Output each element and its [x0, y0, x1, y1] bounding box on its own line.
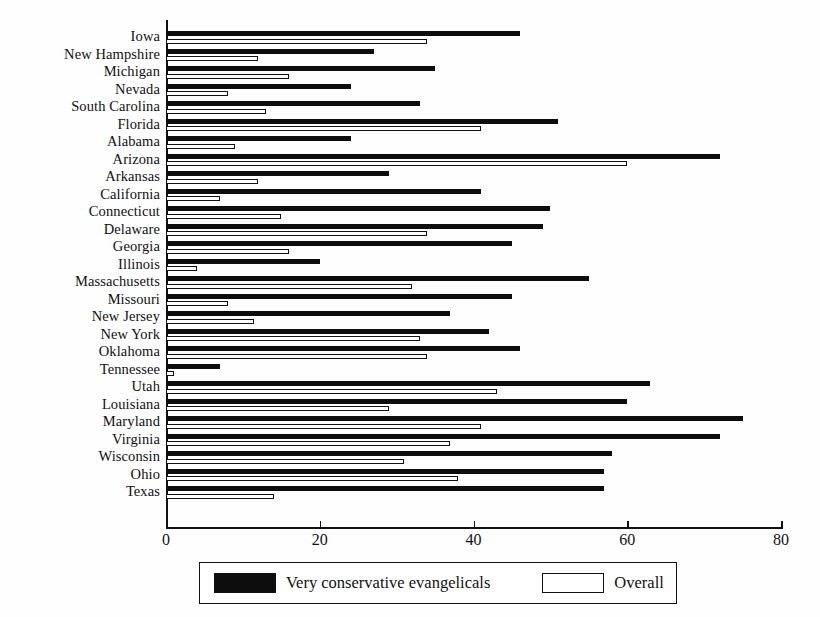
category-label: Virginia — [112, 431, 160, 448]
bar-overall — [166, 144, 235, 149]
bar-very-conservative-evangelicals — [166, 224, 543, 229]
bar-overall — [166, 354, 427, 359]
bar-very-conservative-evangelicals — [166, 434, 720, 439]
bar-very-conservative-evangelicals — [166, 206, 550, 211]
chart-row: Wisconsin — [166, 450, 781, 468]
category-label: Utah — [131, 378, 160, 395]
category-label: Michigan — [104, 63, 160, 80]
legend-label-overall: Overall — [614, 573, 663, 593]
x-tick-label: 80 — [773, 531, 789, 549]
category-label: Missouri — [108, 291, 160, 308]
bar-overall — [166, 74, 289, 79]
bar-very-conservative-evangelicals — [166, 399, 627, 404]
chart-row: Oklahoma — [166, 345, 781, 363]
category-label: Arkansas — [105, 168, 160, 185]
category-label: Massachusetts — [75, 273, 160, 290]
bar-overall — [166, 389, 497, 394]
category-label: Arizona — [113, 151, 160, 168]
bar-overall — [166, 284, 412, 289]
bar-overall — [166, 249, 289, 254]
category-label: Illinois — [118, 256, 160, 273]
bar-overall — [166, 476, 458, 481]
bar-overall — [166, 196, 220, 201]
chart-row: Arizona — [166, 153, 781, 171]
chart-row: Michigan — [166, 65, 781, 83]
legend-item-very-conservative-evangelicals: Very conservative evangelicals — [214, 573, 490, 593]
x-tick-mark — [627, 521, 629, 529]
legend-swatch-black — [214, 573, 276, 593]
bar-overall — [166, 319, 254, 324]
chart-row: Virginia — [166, 433, 781, 451]
x-tick-label: 40 — [466, 531, 482, 549]
bar-very-conservative-evangelicals — [166, 276, 589, 281]
category-label: Florida — [117, 116, 160, 133]
category-label: Nevada — [115, 81, 160, 98]
legend-label-very-conservative-evangelicals: Very conservative evangelicals — [286, 573, 490, 593]
bar-overall — [166, 109, 266, 114]
chart-row: Ohio — [166, 468, 781, 486]
bar-overall — [166, 459, 404, 464]
chart-row: Florida — [166, 118, 781, 136]
category-label: Connecticut — [89, 203, 160, 220]
bar-very-conservative-evangelicals — [166, 189, 481, 194]
chart-row: Tennessee — [166, 363, 781, 381]
bar-very-conservative-evangelicals — [166, 451, 612, 456]
category-label: Georgia — [113, 238, 160, 255]
bar-overall — [166, 179, 258, 184]
chart-row: New Jersey — [166, 310, 781, 328]
category-label: Iowa — [131, 28, 160, 45]
category-label: New York — [100, 326, 160, 343]
legend-item-overall: Overall — [542, 573, 663, 593]
category-label: Louisiana — [102, 396, 160, 413]
bar-very-conservative-evangelicals — [166, 381, 650, 386]
chart-row: Massachusetts — [166, 275, 781, 293]
x-tick-mark — [166, 521, 168, 529]
legend-swatch-white — [542, 573, 604, 593]
chart-row: Delaware — [166, 223, 781, 241]
bar-very-conservative-evangelicals — [166, 469, 604, 474]
bar-very-conservative-evangelicals — [166, 346, 520, 351]
chart-row: California — [166, 188, 781, 206]
bar-chart: IowaNew HampshireMichiganNevadaSouth Car… — [0, 0, 820, 617]
chart-row: Arkansas — [166, 170, 781, 188]
chart-legend: Very conservative evangelicals Overall — [199, 562, 677, 604]
bar-overall — [166, 494, 274, 499]
bar-very-conservative-evangelicals — [166, 119, 558, 124]
bar-overall — [166, 406, 389, 411]
bar-overall — [166, 91, 228, 96]
category-label: Tennessee — [100, 361, 160, 378]
chart-row: New York — [166, 328, 781, 346]
x-tick-label: 60 — [619, 531, 635, 549]
bar-overall — [166, 336, 420, 341]
bar-very-conservative-evangelicals — [166, 294, 512, 299]
bar-very-conservative-evangelicals — [166, 364, 220, 369]
chart-row: Illinois — [166, 258, 781, 276]
bar-very-conservative-evangelicals — [166, 241, 512, 246]
chart-row: Alabama — [166, 135, 781, 153]
category-label: Ohio — [131, 466, 160, 483]
category-label: Texas — [126, 483, 160, 500]
bar-very-conservative-evangelicals — [166, 171, 389, 176]
chart-row: Connecticut — [166, 205, 781, 223]
bar-very-conservative-evangelicals — [166, 101, 420, 106]
bar-overall — [166, 424, 481, 429]
bar-very-conservative-evangelicals — [166, 259, 320, 264]
chart-row: Louisiana — [166, 398, 781, 416]
chart-row: Maryland — [166, 415, 781, 433]
bar-very-conservative-evangelicals — [166, 49, 374, 54]
bar-very-conservative-evangelicals — [166, 416, 743, 421]
category-label: California — [100, 186, 160, 203]
chart-row: Missouri — [166, 293, 781, 311]
category-label: New Hampshire — [64, 46, 160, 63]
bar-overall — [166, 371, 174, 376]
category-label: New Jersey — [92, 308, 160, 325]
category-label: Delaware — [104, 221, 160, 238]
bar-very-conservative-evangelicals — [166, 66, 435, 71]
category-label: Maryland — [103, 413, 160, 430]
bar-very-conservative-evangelicals — [166, 31, 520, 36]
bar-overall — [166, 56, 258, 61]
bar-overall — [166, 231, 427, 236]
bar-very-conservative-evangelicals — [166, 486, 604, 491]
x-tick-mark — [320, 521, 322, 529]
plot-area: IowaNew HampshireMichiganNevadaSouth Car… — [166, 30, 781, 522]
